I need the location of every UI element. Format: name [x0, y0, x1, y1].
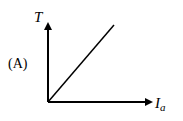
figure-label: (A): [8, 56, 28, 72]
x-axis-label: Ia: [154, 95, 166, 113]
y-axis-label: T: [34, 9, 44, 25]
torque-current-diagram: T (A) Ia: [0, 0, 183, 121]
data-line: [48, 25, 114, 102]
